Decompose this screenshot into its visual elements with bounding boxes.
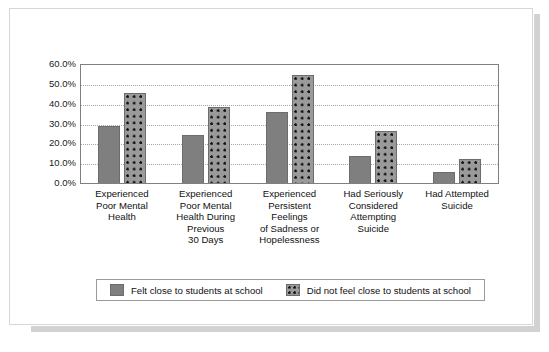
x-axis-category-label: ExperiencedPersistentFeelingsof Sadness …: [248, 188, 332, 246]
legend-item-did-not-feel-close: Did not feel close to students at school: [286, 284, 471, 296]
legend-swatch-solid-icon: [110, 284, 124, 296]
bar-felt-close: [349, 156, 371, 183]
bar-felt-close: [266, 112, 288, 183]
legend-item-felt-close: Felt close to students at school: [110, 284, 263, 296]
x-axis-category-labels: ExperiencedPoor MentalHealthExperiencedP…: [80, 188, 499, 260]
y-axis-tick-label: 50.0%: [24, 79, 76, 89]
y-axis-tick-label: 40.0%: [24, 99, 76, 109]
legend-swatch-dotted-icon: [286, 284, 300, 296]
y-axis-tick-label: 0.0%: [24, 178, 76, 188]
bar-did-not-feel-close: [375, 131, 397, 183]
bar-did-not-feel-close: [292, 75, 314, 183]
bar-did-not-feel-close: [459, 159, 481, 183]
y-axis-tick-label: 20.0%: [24, 138, 76, 148]
chart-legend: Felt close to students at school Did not…: [96, 279, 485, 301]
x-axis-category-label: Had AttemptedSuicide: [415, 188, 499, 211]
y-axis-labels: 60.0%50.0%40.0%30.0%20.0%10.0%0.0%: [24, 57, 76, 191]
bar-felt-close: [182, 135, 204, 183]
bar-felt-close: [98, 126, 120, 183]
x-axis-category-label: Had SeriouslyConsideredAttemptingSuicide: [331, 188, 415, 234]
card-shadow-bottom: [31, 326, 540, 332]
legend-label-did-not-feel-close: Did not feel close to students at school: [307, 285, 471, 296]
x-axis-category-label: ExperiencedPoor MentalHealth: [80, 188, 164, 223]
y-axis-tick-label: 10.0%: [24, 158, 76, 168]
legend-label-felt-close: Felt close to students at school: [131, 285, 263, 296]
bars-layer: [80, 64, 499, 183]
card-shadow-right: [534, 14, 540, 326]
y-axis-tick-label: 30.0%: [24, 119, 76, 129]
chart-card: 60.0%50.0%40.0%30.0%20.0%10.0%0.0% Exper…: [9, 8, 533, 325]
y-axis-tick-label: 60.0%: [24, 59, 76, 69]
bar-felt-close: [433, 172, 455, 183]
x-axis-category-label: ExperiencedPoor MentalHealth DuringPrevi…: [164, 188, 248, 246]
bar-did-not-feel-close: [124, 93, 146, 183]
bar-did-not-feel-close: [208, 107, 230, 183]
